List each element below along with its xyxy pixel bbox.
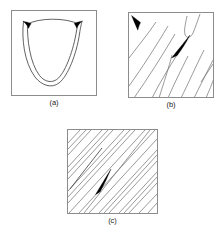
panel-b: (b): [128, 12, 214, 98]
panel-b-caption: (b): [128, 100, 214, 109]
panel-a: (a): [11, 10, 97, 96]
panel-c-caption: (c): [67, 216, 158, 225]
panel-a-graphic: [11, 10, 97, 96]
panel-a-caption: (a): [11, 98, 97, 107]
panel-a-frame: [12, 11, 97, 96]
panel-b-graphic: [128, 12, 214, 98]
panel-c: (c): [67, 129, 158, 214]
figure-root: (a): [0, 0, 224, 235]
panel-c-graphic: [67, 129, 158, 214]
